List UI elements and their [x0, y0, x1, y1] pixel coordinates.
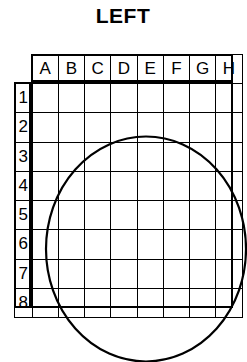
grid-row: 2 [15, 113, 243, 142]
grid-body: A B C D E F G H 1 2 [15, 55, 243, 318]
row-header-8[interactable]: 8 [15, 288, 33, 317]
grid-cell[interactable] [190, 142, 216, 171]
grid-cell[interactable] [85, 201, 111, 230]
grid-row: 3 [15, 142, 243, 171]
row-header-2[interactable]: 2 [15, 113, 33, 142]
column-header-h[interactable]: H [216, 55, 242, 84]
grid-cell[interactable] [137, 171, 163, 200]
grid-cell[interactable] [216, 230, 242, 259]
row-header-7[interactable]: 7 [15, 259, 33, 288]
grid-cell[interactable] [58, 113, 84, 142]
grid-cell[interactable] [190, 288, 216, 317]
grid-cell[interactable] [111, 259, 137, 288]
grid-cell[interactable] [190, 230, 216, 259]
grid-cell[interactable] [85, 142, 111, 171]
grid-cell[interactable] [85, 171, 111, 200]
grid-cell[interactable] [216, 288, 242, 317]
grid-row: 1 [15, 84, 243, 113]
grid-cell[interactable] [32, 259, 58, 288]
grid-cell[interactable] [137, 259, 163, 288]
grid-cell[interactable] [137, 84, 163, 113]
grid-cell[interactable] [137, 230, 163, 259]
column-header-e[interactable]: E [137, 55, 163, 84]
grid-cell[interactable] [137, 142, 163, 171]
grid-cell[interactable] [58, 288, 84, 317]
grid-cell[interactable] [111, 171, 137, 200]
grid-cell[interactable] [85, 259, 111, 288]
grid-cell[interactable] [58, 201, 84, 230]
grid-cell[interactable] [111, 288, 137, 317]
grid-cell[interactable] [216, 259, 242, 288]
grid-cell[interactable] [137, 288, 163, 317]
grid-header-row: A B C D E F G H [15, 55, 243, 84]
grid-cell[interactable] [190, 171, 216, 200]
grid-cell[interactable] [32, 171, 58, 200]
grid-cell[interactable] [190, 113, 216, 142]
grid-cell[interactable] [32, 84, 58, 113]
grid-cell[interactable] [32, 201, 58, 230]
grid-cell[interactable] [163, 84, 189, 113]
grid-cell[interactable] [137, 113, 163, 142]
row-header-3[interactable]: 3 [15, 142, 33, 171]
row-header-4[interactable]: 4 [15, 171, 33, 200]
grid-cell[interactable] [190, 259, 216, 288]
column-header-f[interactable]: F [163, 55, 189, 84]
row-header-5[interactable]: 5 [15, 201, 33, 230]
page-title: LEFT [0, 4, 246, 28]
grid-container: A B C D E F G H 1 2 [14, 54, 233, 308]
grid-row: 4 [15, 171, 243, 200]
grid-cell[interactable] [111, 201, 137, 230]
grid-cell[interactable] [163, 171, 189, 200]
grid-cell[interactable] [216, 201, 242, 230]
grid-cell[interactable] [163, 288, 189, 317]
grid-cell[interactable] [163, 259, 189, 288]
grid-cell[interactable] [85, 113, 111, 142]
grid-row: 8 [15, 288, 243, 317]
grid-row: 6 [15, 230, 243, 259]
column-header-d[interactable]: D [111, 55, 137, 84]
grid-cell[interactable] [111, 113, 137, 142]
grid-cell[interactable] [85, 288, 111, 317]
grid-cell[interactable] [58, 259, 84, 288]
grid-cell[interactable] [32, 113, 58, 142]
column-header-b[interactable]: B [58, 55, 84, 84]
coordinate-grid: A B C D E F G H 1 2 [14, 54, 243, 318]
grid-cell[interactable] [58, 84, 84, 113]
grid-cell[interactable] [190, 201, 216, 230]
grid-cell[interactable] [32, 230, 58, 259]
column-header-g[interactable]: G [190, 55, 216, 84]
grid-cell[interactable] [111, 230, 137, 259]
grid-cell[interactable] [58, 171, 84, 200]
column-header-c[interactable]: C [85, 55, 111, 84]
grid-cell[interactable] [216, 171, 242, 200]
grid-cell[interactable] [216, 113, 242, 142]
grid-cell[interactable] [111, 84, 137, 113]
column-header-a[interactable]: A [32, 55, 58, 84]
grid-cell[interactable] [58, 142, 84, 171]
grid-cell[interactable] [163, 230, 189, 259]
row-header-1[interactable]: 1 [15, 84, 33, 113]
grid-cell[interactable] [216, 84, 242, 113]
grid-row: 5 [15, 201, 243, 230]
row-header-6[interactable]: 6 [15, 230, 33, 259]
grid-cell[interactable] [163, 142, 189, 171]
grid-cell[interactable] [111, 142, 137, 171]
grid-corner-cell [15, 55, 33, 84]
grid-cell[interactable] [58, 230, 84, 259]
grid-cell[interactable] [85, 230, 111, 259]
grid-cell[interactable] [85, 84, 111, 113]
grid-cell[interactable] [32, 142, 58, 171]
grid-cell[interactable] [163, 113, 189, 142]
grid-row: 7 [15, 259, 243, 288]
grid-cell[interactable] [137, 201, 163, 230]
grid-cell[interactable] [216, 142, 242, 171]
grid-cell[interactable] [190, 84, 216, 113]
grid-cell[interactable] [32, 288, 58, 317]
grid-cell[interactable] [163, 201, 189, 230]
